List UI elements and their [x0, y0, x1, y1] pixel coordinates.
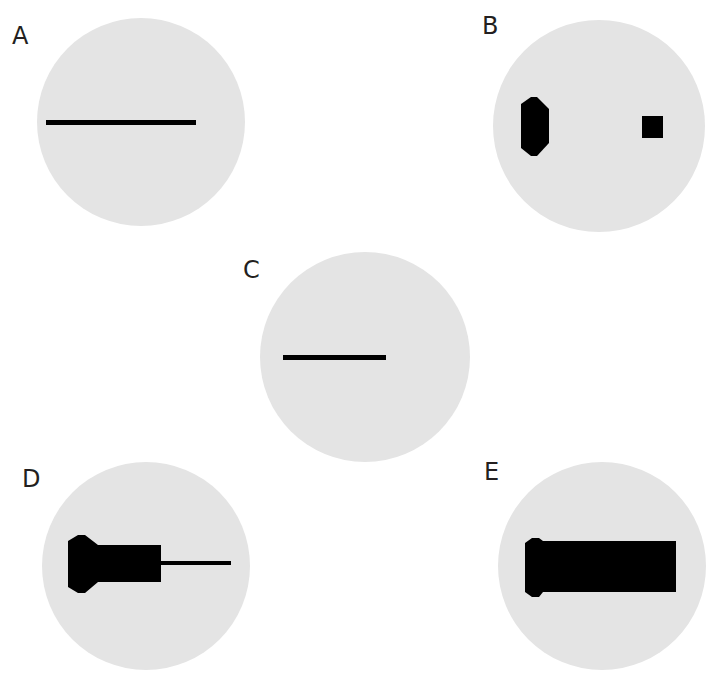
rounded-bar-shape — [525, 538, 676, 597]
disc-e — [0, 0, 719, 683]
